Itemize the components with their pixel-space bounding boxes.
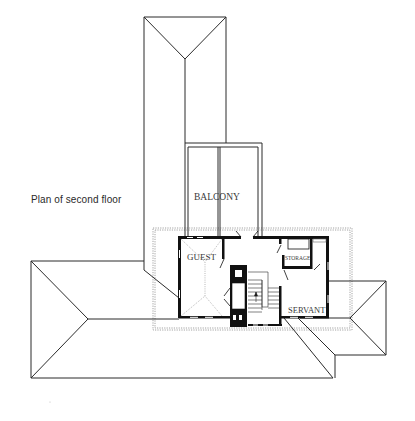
stray-dot: [49, 401, 50, 402]
stair-wall-right: [279, 286, 282, 326]
room-label-guest: GUEST: [187, 252, 217, 262]
guest-room: [181, 237, 225, 316]
east-roof: [284, 281, 386, 378]
room-label-balcony: BALCONY: [194, 192, 240, 202]
floor-plan-drawing: BALCONY: [0, 0, 415, 421]
staircase: [248, 272, 280, 312]
room-label-servant: SERVANT: [288, 305, 326, 315]
room-label-storage: STORAGE: [285, 255, 311, 261]
balcony: [185, 143, 262, 237]
